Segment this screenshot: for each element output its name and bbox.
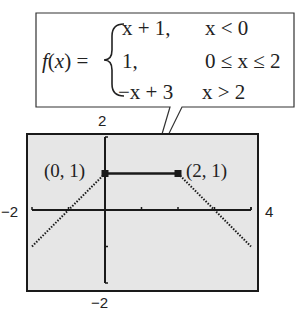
y-max-label: 2 <box>98 112 106 129</box>
case-3-cond: x > 2 <box>202 80 245 105</box>
point-marker <box>175 170 182 177</box>
case-1-expr: x + 1, <box>122 16 171 41</box>
case-2-cond: 0 ≤ x ≤ 2 <box>205 49 281 74</box>
x-max-label: 4 <box>265 203 273 220</box>
point-label-0-1: (0, 1) <box>44 160 85 182</box>
point-marker <box>102 170 109 177</box>
y-min-label: −2 <box>91 294 108 311</box>
case-2-expr: 1, <box>122 49 138 74</box>
case-3-expr: −x + 3 <box>118 80 173 105</box>
function-name: f(x) = <box>42 49 88 74</box>
case-1-cond: x < 0 <box>205 16 248 41</box>
screen-frame <box>27 134 258 291</box>
x-min-label: −2 <box>1 203 18 220</box>
point-label-2-1: (2, 1) <box>186 160 227 182</box>
